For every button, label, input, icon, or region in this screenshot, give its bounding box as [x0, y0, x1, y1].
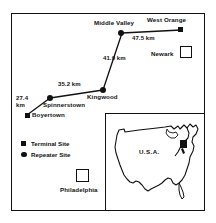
filled-square-icon — [21, 141, 31, 146]
site-label-kingwood: Kingwood — [87, 93, 118, 100]
link-distance-boyertown-spinnerstown: 27.4 km — [16, 95, 38, 110]
link-distance-spinnerstown-kingwood: 35.2 km — [58, 81, 81, 88]
legend-label-terminal-site: Terminal Site — [31, 140, 69, 147]
legend-item-repeater-site: Repeater Site — [21, 150, 71, 159]
map-legend: Terminal Site Repeater Site — [21, 139, 71, 161]
legend-item-terminal-site: Terminal Site — [21, 139, 71, 148]
route-map-figure: West Orange Middle Valley Kingwood Spinn… — [0, 0, 216, 223]
site-label-spinnerstown: Spinnerstown — [43, 101, 85, 108]
usa-inset-label: U.S.A. — [139, 148, 160, 155]
city-label-philadelphia: Philadelphia — [60, 186, 98, 193]
city-box-newark — [180, 46, 192, 58]
filled-circle-icon — [21, 152, 31, 158]
link-distance-kingwood-middle-valley: 41.9 km — [103, 55, 126, 62]
site-label-middle-valley: Middle Valley — [94, 19, 134, 26]
site-marker-middle-valley[interactable] — [118, 30, 124, 36]
site-label-boyertown: Boyertown — [32, 111, 65, 118]
city-box-philadelphia — [76, 169, 89, 182]
site-marker-boyertown[interactable] — [25, 113, 30, 118]
site-marker-west-orange[interactable] — [178, 27, 183, 32]
site-label-west-orange: West Orange — [147, 16, 186, 23]
florida-detail — [179, 183, 184, 199]
usa-outline-map — [105, 113, 205, 211]
legend-label-repeater-site: Repeater Site — [31, 151, 71, 158]
link-distance-middle-valley-west-orange: 47.5 km — [132, 35, 155, 42]
great-lakes-detail — [166, 129, 178, 138]
study-area-highlight — [180, 140, 187, 148]
usa-country-outline — [115, 124, 198, 191]
study-area-tail — [181, 148, 185, 154]
city-label-newark: Newark — [151, 50, 174, 57]
